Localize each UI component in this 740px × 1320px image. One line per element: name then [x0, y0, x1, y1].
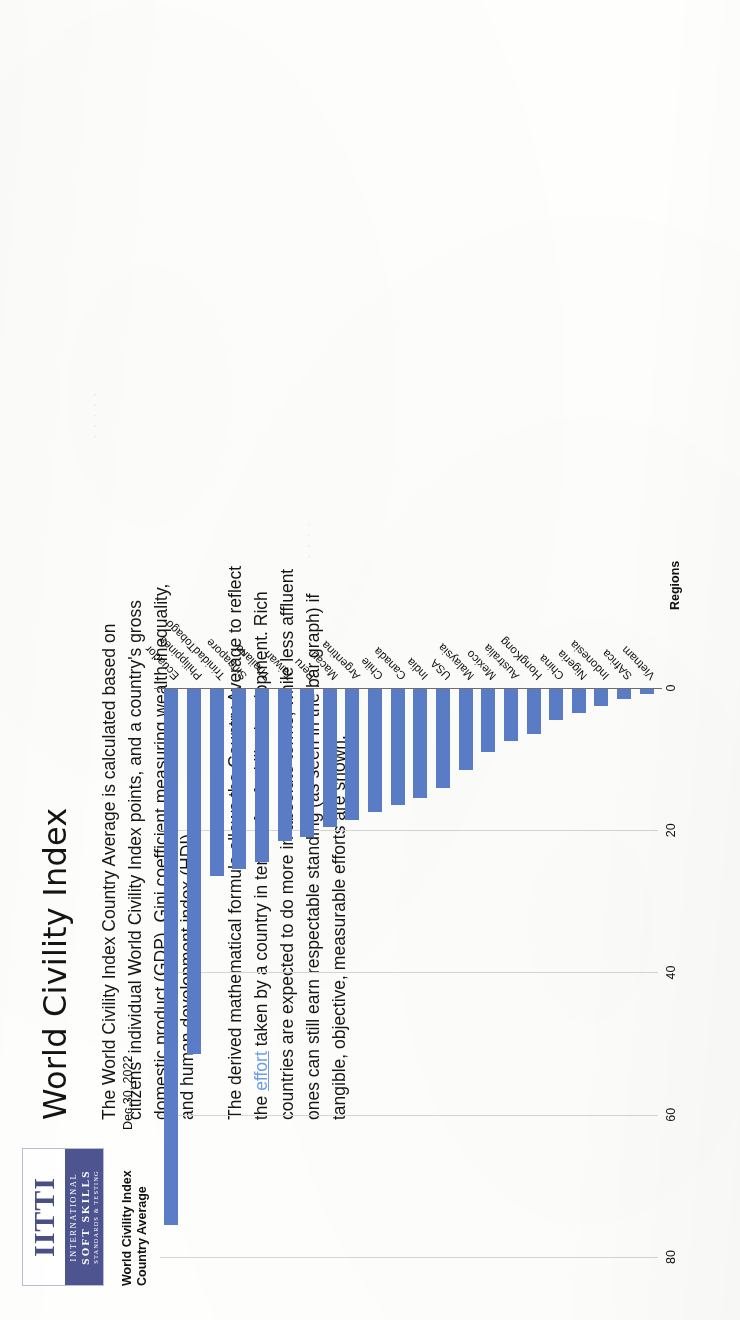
- scanned-page: · · · · · · · · · IITTI INTERNATIONAL SO…: [0, 0, 740, 1320]
- bar: [300, 688, 314, 837]
- bar: [323, 688, 337, 827]
- bar-series: [160, 688, 658, 1257]
- gridline: [160, 1257, 658, 1258]
- chart-title: World Civility Index Country Average: [120, 1156, 150, 1286]
- bar: [255, 688, 269, 862]
- page-title: World Civility Index: [36, 808, 74, 1120]
- bar: [368, 688, 382, 812]
- tick-label: 60: [664, 1108, 678, 1122]
- chart-title-line2: Country Average: [135, 1156, 150, 1286]
- logo-tagline-line3: STANDARDS & TESTING: [92, 1170, 99, 1263]
- logo-tagline-line1: INTERNATIONAL: [68, 1173, 78, 1262]
- logo-tagline-line2: SOFT SKILLS: [79, 1169, 91, 1264]
- bar: [210, 688, 224, 876]
- bar: [594, 688, 608, 706]
- bar: [481, 688, 495, 752]
- bar-chart-plot-area: [160, 688, 658, 1257]
- value-axis-line: [154, 688, 662, 689]
- value-axis-tick-labels: 020406080: [664, 688, 686, 1257]
- tick-label: 20: [664, 823, 678, 837]
- bar: [232, 688, 246, 869]
- bar: [436, 688, 450, 788]
- iitti-logo: IITTI INTERNATIONAL SOFT SKILLS STANDARD…: [22, 1148, 104, 1286]
- scan-showthrough: · · · · ·: [86, 392, 102, 440]
- bar: [164, 688, 178, 1225]
- scan-showthrough: · · · ·: [300, 523, 316, 560]
- document-sheet: · · · · · · · · · IITTI INTERNATIONAL SO…: [0, 0, 740, 1320]
- bar: [572, 688, 586, 713]
- bar: [278, 688, 292, 841]
- bar: [345, 688, 359, 820]
- bar: [413, 688, 427, 798]
- bar: [549, 688, 563, 720]
- tick-label: 40: [664, 966, 678, 980]
- logo-wordmark: IITTI: [23, 1149, 65, 1285]
- tick-label: 80: [664, 1250, 678, 1264]
- bar: [187, 688, 201, 1054]
- category-label: India: [404, 656, 430, 682]
- chart-title-line1: World Civility Index: [120, 1156, 135, 1286]
- bar: [617, 688, 631, 699]
- bar: [504, 688, 518, 741]
- bar: [459, 688, 473, 770]
- logo-tagline-block: INTERNATIONAL SOFT SKILLS STANDARDS & TE…: [65, 1149, 103, 1285]
- bar: [391, 688, 405, 805]
- tick-label: 0: [664, 685, 678, 692]
- bar: [527, 688, 541, 734]
- chart-date: Dec 30, 2022: [121, 1056, 135, 1130]
- category-axis-title: Regions: [668, 561, 682, 610]
